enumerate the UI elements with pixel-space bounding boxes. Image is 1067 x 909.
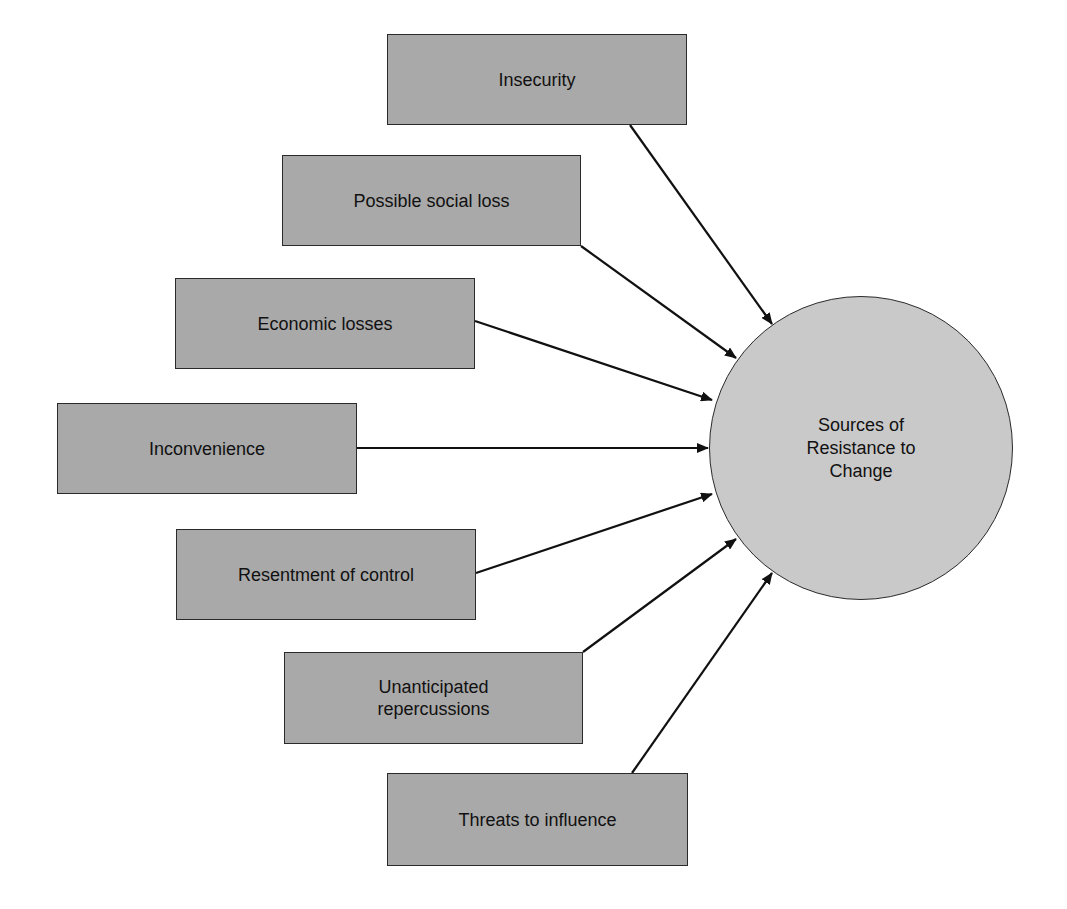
source-node-insecurity: Insecurity [387,34,687,125]
source-node-possible-social-loss: Possible social loss [282,155,581,246]
arrow-threats-to-influence [632,573,772,773]
resistance-diagram: InsecurityPossible social lossEconomic l… [0,0,1067,909]
arrow-possible-social-loss [581,246,736,358]
source-node-label: Resentment of control [238,564,414,586]
source-node-label: Threats to influence [458,809,616,831]
center-node-label: Sources of Resistance to Change [806,414,915,483]
arrow-unanticipated-repercussions [583,539,736,652]
source-node-unanticipated-repercussions: Unanticipated repercussions [284,652,583,744]
source-node-label: Economic losses [257,313,392,335]
source-node-inconvenience: Inconvenience [57,403,357,494]
source-node-label: Unanticipated repercussions [377,676,489,720]
source-node-economic-losses: Economic losses [175,278,475,369]
center-node-sources-of-resistance: Sources of Resistance to Change [709,296,1013,600]
arrow-economic-losses [475,321,712,400]
source-node-threats-to-influence: Threats to influence [387,773,688,866]
arrow-insecurity [630,125,772,324]
source-node-label: Inconvenience [149,438,265,460]
source-node-resentment-of-control: Resentment of control [176,529,476,620]
source-node-label: Insecurity [498,69,575,91]
source-node-label: Possible social loss [353,190,509,212]
arrow-resentment-of-control [476,494,712,573]
